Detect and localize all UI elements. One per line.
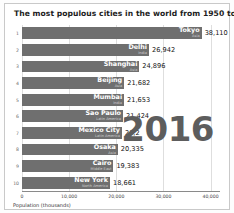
bar-rank-label: 10 [13, 180, 19, 185]
bar[interactable] [22, 61, 139, 73]
bar-rank-label: 5 [16, 97, 19, 102]
bar[interactable] [22, 77, 124, 89]
bar[interactable] [22, 127, 122, 139]
x-tick-label: 30,000 [155, 194, 171, 199]
x-tick-label: 20,000 [108, 194, 124, 199]
bar[interactable] [22, 44, 149, 56]
bar-value-label: 21,653 [127, 96, 150, 104]
bar-rank-label: 1 [16, 31, 19, 36]
bar[interactable] [22, 144, 118, 156]
x-axis-line [22, 191, 220, 192]
bar-row[interactable]: 10New YorkNorth America18,661 [22, 177, 220, 189]
bar-row[interactable]: 4BeijingAsia21,682 [22, 77, 220, 89]
bar-value-label: 18,661 [113, 179, 136, 187]
bar-rank-label: 6 [16, 114, 19, 119]
bar-row[interactable]: 5MumbaiIndia21,653 [22, 94, 220, 106]
bar-rank-label: 3 [16, 64, 19, 69]
bar-rank-label: 8 [16, 147, 19, 152]
x-tick-label: 0 [21, 194, 24, 199]
year-annotation: 2016 [121, 112, 214, 146]
bar-value-label: 19,383 [116, 162, 139, 170]
bar-rank-label: 4 [16, 81, 19, 86]
bar[interactable] [22, 160, 113, 172]
bar[interactable] [22, 94, 124, 106]
bar-rank-label: 2 [16, 47, 19, 52]
x-axis-title: Population (thousands) [13, 202, 71, 208]
bar-value-label: 24,896 [142, 62, 165, 70]
plot-area: 1TokyoAsia38,1102DelhiIndia26,9423Shangh… [22, 25, 220, 191]
bar-value-label: 38,110 [205, 29, 228, 37]
chart-figure: The most populous cities in the world fr… [0, 0, 234, 213]
bar[interactable] [22, 177, 110, 189]
bar[interactable] [22, 110, 123, 122]
x-tick-label: 10,000 [61, 194, 77, 199]
bar-row[interactable]: 2DelhiIndia26,942 [22, 44, 220, 56]
bar-rank-label: 7 [16, 130, 19, 135]
x-tick-label: 40,000 [203, 194, 219, 199]
bar-value-label: 21,682 [127, 79, 150, 87]
bar-rank-label: 9 [16, 164, 19, 169]
bar-row[interactable]: 3ShanghaiAsia24,896 [22, 61, 220, 73]
bar-value-label: 26,942 [152, 46, 175, 54]
bar-row[interactable]: 9CairoMiddle East19,383 [22, 160, 220, 172]
bar-row[interactable]: 1TokyoAsia38,110 [22, 27, 220, 39]
bar[interactable] [22, 27, 202, 39]
chart-title: The most populous cities in the world fr… [14, 9, 226, 18]
